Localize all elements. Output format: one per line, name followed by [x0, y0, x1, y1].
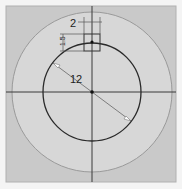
keyway-center-point[interactable] [90, 40, 93, 43]
center-point[interactable] [90, 90, 94, 94]
diameter-label[interactable]: 12 [70, 73, 82, 85]
height-label[interactable]: 1.5 [59, 36, 66, 46]
width-label[interactable]: 2 [70, 17, 76, 29]
cad-sketch: 12 2 1.5 [0, 0, 182, 189]
